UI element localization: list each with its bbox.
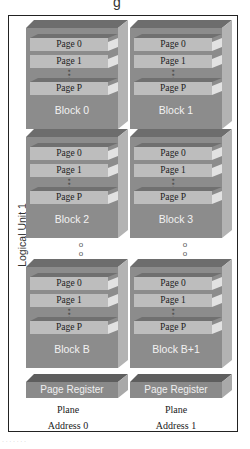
plane-address-1-label: Plane Address 1	[130, 402, 222, 434]
block-0: Page 0 Page 1 ●●● Page P Block 0	[26, 20, 128, 129]
block-side-face	[222, 129, 232, 238]
page-1: Page 1	[30, 294, 108, 307]
page-p: Page P	[134, 82, 212, 95]
block-label: Block 0	[26, 104, 118, 116]
page-0: Page 0	[30, 147, 108, 160]
page-1: Page 1	[30, 55, 108, 68]
block-b: Page 0 Page 1 ●●● Page P Block B	[26, 259, 128, 368]
page-p: Page P	[134, 191, 212, 204]
address-label: Address 1	[130, 418, 222, 434]
plane-address-0-label: Plane Address 0	[22, 402, 114, 434]
address-label: Address 0	[22, 418, 114, 434]
block-top-face	[26, 259, 128, 267]
page-p: Page P	[30, 82, 108, 95]
block-1: Page 0 Page 1 ●●● Page P Block 1	[130, 20, 232, 129]
page-1: Page 1	[134, 55, 212, 68]
title-fragment: g	[113, 0, 121, 10]
page-0: Page 0	[134, 147, 212, 160]
page-1: Page 1	[134, 294, 212, 307]
page-register-label: Page Register	[130, 382, 222, 398]
page-p: Page P	[134, 321, 212, 334]
page-1: Page 1	[134, 164, 212, 177]
block-label: Block B	[26, 343, 118, 355]
block-side-face	[118, 20, 128, 129]
page-register-0: Page Register	[26, 374, 128, 398]
block-b-plus-1: Page 0 Page 1 ●●● Page P Block B+1	[130, 259, 232, 368]
block-2: Page 0 Page 1 ●●● Page P Block 2	[26, 129, 128, 238]
block-top-face	[130, 259, 232, 267]
block-label: Block 3	[130, 213, 222, 225]
page-1: Page 1	[30, 164, 108, 177]
block-side-face	[118, 129, 128, 238]
block-top-face	[130, 129, 232, 137]
block-label: Block 2	[26, 213, 118, 225]
page-register-1: Page Register	[130, 374, 232, 398]
register-top-face	[26, 374, 128, 382]
page-0: Page 0	[30, 38, 108, 51]
block-3: Page 0 Page 1 ●●● Page P Block 3	[130, 129, 232, 238]
block-top-face	[26, 129, 128, 137]
page-p: Page P	[30, 321, 108, 334]
plane-label: Plane	[22, 402, 114, 418]
page-register-label: Page Register	[26, 382, 118, 398]
block-side-face	[118, 259, 128, 368]
page-0: Page 0	[30, 277, 108, 290]
plane-label: Plane	[130, 402, 222, 418]
block-top-face	[26, 20, 128, 28]
block-top-face	[130, 20, 232, 28]
block-ellipsis-icon: oo	[77, 240, 85, 258]
register-top-face	[130, 374, 232, 382]
page-p: Page P	[30, 191, 108, 204]
block-label: Block B+1	[130, 343, 222, 355]
block-side-face	[222, 259, 232, 368]
page-0: Page 0	[134, 277, 212, 290]
block-side-face	[222, 20, 232, 129]
page-0: Page 0	[134, 38, 212, 51]
footnote-text: · · · · · · ·	[2, 438, 26, 444]
block-label: Block 1	[130, 104, 222, 116]
block-ellipsis-icon: oo	[181, 240, 189, 258]
